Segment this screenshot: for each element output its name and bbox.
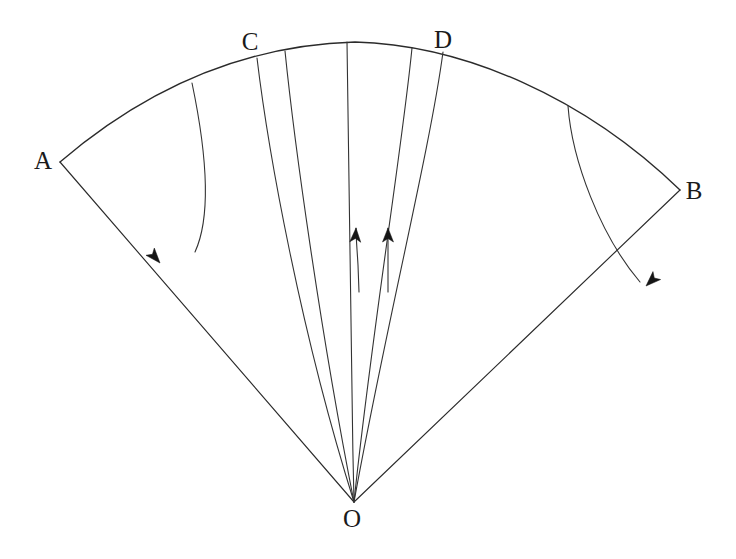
streamline-7	[568, 106, 640, 282]
label-D: D	[434, 26, 452, 53]
streamline-2	[257, 58, 354, 502]
streamline-5	[354, 48, 412, 502]
diagram-canvas: A B C D O	[0, 0, 736, 559]
outer-arc-AB	[60, 42, 680, 190]
sector-flow-diagram: A B C D O	[0, 0, 736, 559]
streamline-1	[192, 83, 205, 252]
flow-arrowhead-1	[350, 228, 362, 243]
streamline-6	[354, 52, 443, 502]
label-B: B	[686, 177, 703, 204]
label-O: O	[343, 505, 361, 532]
label-C: C	[242, 28, 259, 55]
streamline-4	[347, 42, 354, 502]
radius-line-OB	[354, 190, 680, 502]
radius-line-OA	[60, 162, 354, 502]
label-A: A	[34, 147, 52, 174]
radius-OB-arrowhead	[642, 272, 660, 290]
